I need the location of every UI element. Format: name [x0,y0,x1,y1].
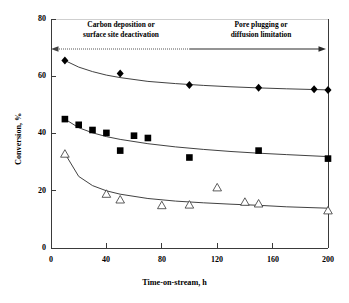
data-point-diamond [325,86,332,94]
annotation-right-line1: Pore plugging or [196,20,326,30]
data-point-triangle [241,198,250,206]
x-tick-label-160: 160 [259,255,287,264]
series-diamond-markers [61,57,331,95]
data-point-triangle [116,196,125,204]
annotation-left-line1: Carbon deposition or [56,20,186,30]
carbon-deposition-annotation: Carbon deposition or surface site deacti… [56,20,186,39]
data-point-triangle [102,190,111,198]
data-point-diamond [311,85,318,93]
pore-plugging-annotation: Pore plugging or diffusion limitation [196,20,326,39]
axes-frame [51,19,328,248]
trend-curve-square [65,119,328,157]
chart-figure: Carbon deposition or surface site deacti… [0,0,349,303]
data-point-square [89,127,96,134]
data-point-square [117,147,124,154]
y-tick-label-80: 80 [22,14,46,23]
annotation-left-line2: surface site deactivation [56,30,186,40]
data-point-triangle [254,200,263,208]
regime-span-arrow [51,46,326,52]
data-point-diamond [255,84,262,92]
annotation-right-line2: diffusion limitation [196,30,326,40]
x-tick-label-0: 0 [37,255,65,264]
data-point-triangle [324,206,333,214]
series-triangle-markers [61,150,333,214]
arrow-head-right [319,46,327,52]
y-axis-ticks [51,19,56,248]
data-point-diamond [117,69,124,77]
x-tick-label-120: 120 [203,255,231,264]
data-point-triangle [61,150,70,158]
y-tick-label-0: 0 [22,243,46,252]
x-tick-label-200: 200 [314,255,342,264]
data-point-square [325,155,332,162]
x-axis-title: Time-on-stream, h [0,278,349,287]
x-tick-label-40: 40 [92,255,120,264]
trend-curve-diamond [65,61,328,90]
data-point-square [62,116,69,123]
data-point-diamond [61,57,68,65]
y-tick-label-60: 60 [22,71,46,80]
y-axis-title: Conversion, % [14,113,23,165]
x-axis-ticks [51,243,328,248]
data-point-square [145,135,152,142]
y-tick-label-40: 40 [22,128,46,137]
data-point-diamond [186,81,193,89]
y-tick-label-20: 20 [22,186,46,195]
x-tick-label-80: 80 [148,255,176,264]
data-point-square [186,154,193,161]
arrow-head-left [51,46,59,52]
data-point-triangle [213,183,222,191]
data-point-square [255,147,262,154]
data-point-square [131,132,138,139]
data-point-square [75,122,82,129]
trend-curve-triangle [65,154,328,209]
data-point-square [103,130,110,137]
data-point-triangle [158,201,167,209]
